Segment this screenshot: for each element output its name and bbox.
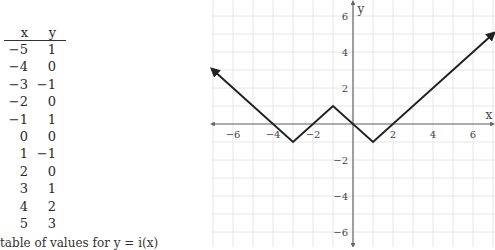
x-tick-label: −4 [266, 129, 281, 140]
x-tick-label: −6 [226, 129, 241, 140]
y-tick-label: 2 [342, 83, 348, 94]
y-tick-label: 6 [342, 11, 348, 22]
y-tick-label: 4 [342, 47, 348, 58]
y-tick-label: −4 [333, 191, 348, 202]
y-tick-label: −6 [333, 227, 348, 238]
x-tick-label: −2 [306, 129, 321, 140]
y-tick-label: −2 [333, 155, 348, 166]
x-tick-label: 6 [470, 129, 476, 140]
x-tick-label: 2 [390, 129, 396, 140]
x-tick-label: 4 [430, 129, 436, 140]
x-axis-label: x [486, 108, 493, 122]
y-axis-label: y [357, 2, 365, 16]
